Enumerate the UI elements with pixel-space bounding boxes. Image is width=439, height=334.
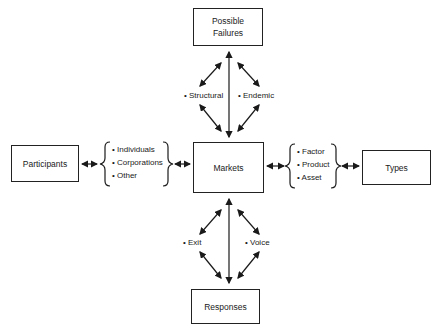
possible-failures-label-line2: Failures (212, 27, 244, 39)
markets-box: Markets (193, 142, 264, 193)
voice-label: • Voice (245, 238, 270, 248)
list-item-factor: • Factor (297, 145, 330, 158)
list-item-other: • Other (112, 169, 163, 182)
responses-box: Responses (191, 289, 260, 324)
list-item-asset: • Asset (297, 171, 330, 184)
markets-label: Markets (213, 162, 243, 174)
list-item-corporations: • Corporations (112, 156, 163, 169)
participants-box: Participants (11, 145, 79, 182)
types-list: • Factor • Product • Asset (297, 145, 330, 184)
responses-label: Responses (204, 301, 247, 313)
types-label: Types (385, 162, 408, 174)
list-item-individuals: • Individuals (112, 143, 163, 156)
list-item-product: • Product (297, 158, 330, 171)
types-box: Types (362, 150, 431, 185)
exit-label: • Exit (183, 238, 201, 248)
participants-list: • Individuals • Corporations • Other (112, 143, 163, 182)
participants-label: Participants (23, 158, 67, 170)
endemic-label: • Endemic (238, 91, 274, 101)
possible-failures-box: Possible Failures (193, 8, 263, 46)
structural-label: • Structural (184, 91, 223, 101)
possible-failures-label-line1: Possible (212, 15, 244, 27)
